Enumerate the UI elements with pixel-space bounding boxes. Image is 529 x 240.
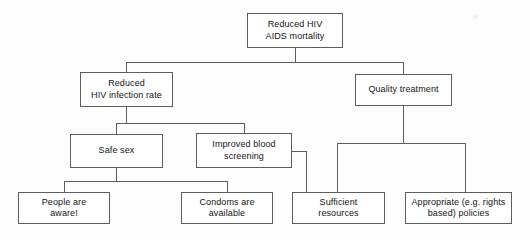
node-reduced-hiv-aids-mortality: Reduced HIV AIDS mortality <box>247 13 343 48</box>
node-label: People are aware! <box>42 197 87 220</box>
node-label: Appropriate (e.g. rights based) policies <box>412 197 506 220</box>
node-label: Safe sex <box>99 145 135 156</box>
node-improved-blood-screening: Improved blood screening <box>196 133 292 168</box>
node-label: Reduced HIV AIDS mortality <box>266 19 325 42</box>
edge-blood-screening-to-sufficient-resources <box>292 152 307 193</box>
edge-goal-to-level1 <box>127 48 404 74</box>
node-appropriate-policies: Appropriate (e.g. rights based) policies <box>405 192 512 224</box>
node-label: Improved blood screening <box>212 139 275 162</box>
node-condoms-are-available: Condoms are available <box>181 192 273 224</box>
edge-quality-treatment-to-level3 <box>338 106 466 192</box>
node-label: Sufficient resources <box>318 197 358 220</box>
node-quality-treatment: Quality treatment <box>355 74 452 106</box>
node-label: Reduced HIV infection rate <box>91 78 162 101</box>
edge-safe-sex-to-level3 <box>65 168 228 192</box>
node-reduced-hiv-infection-rate: Reduced HIV infection rate <box>80 72 173 107</box>
node-label: Condoms are available <box>199 197 254 220</box>
node-people-are-aware: People are aware! <box>18 192 110 224</box>
node-safe-sex: Safe sex <box>70 134 163 168</box>
scan-artifact <box>473 15 478 19</box>
node-label: Quality treatment <box>368 84 438 95</box>
edge-reduced-infection-to-level2 <box>117 107 245 134</box>
objective-tree-diagram: Reduced HIV AIDS mortality Reduced HIV i… <box>0 0 529 240</box>
node-sufficient-resources: Sufficient resources <box>292 192 385 224</box>
